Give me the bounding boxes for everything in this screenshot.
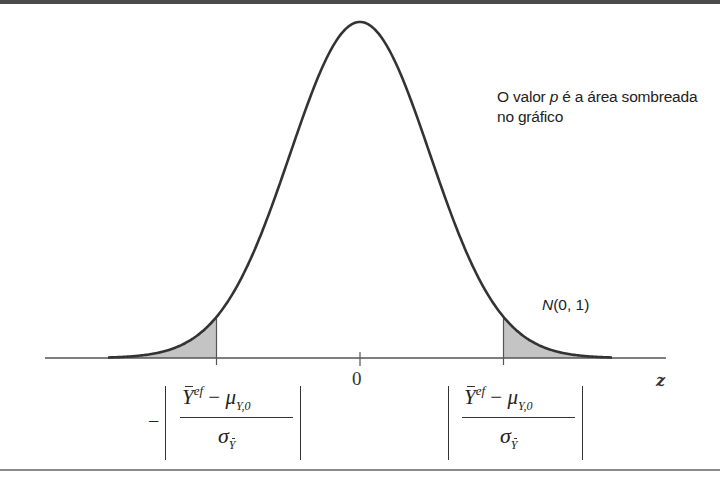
distribution-name: N [542, 296, 553, 313]
right-cutoff-formula: Yef − μY,0 σY [440, 380, 610, 462]
negative-sign: − [148, 410, 159, 433]
distribution-params: (0, 1) [553, 296, 589, 313]
abs-bar-left [165, 386, 166, 460]
annotation-p-symbol: p [550, 88, 558, 105]
y-bar-symbol: Y [464, 385, 476, 410]
distribution-label: N(0, 1) [542, 296, 589, 314]
mu-subscript: Y,0 [518, 399, 533, 413]
normal-density-curve [108, 22, 612, 357]
ef-superscript: ef [476, 383, 485, 398]
formula-denominator: σY [500, 423, 518, 453]
y-bar-symbol: Y [182, 385, 194, 410]
annotation-text-prefix: O valor [497, 88, 550, 105]
sigma-subscript: Y [229, 438, 236, 453]
mu-subscript: Y,0 [236, 399, 251, 413]
z-axis-label: z [656, 371, 665, 390]
minus-operator: − [203, 385, 225, 409]
left-cutoff-formula: − Yef − μY,0 σY [140, 380, 310, 462]
abs-bar-left [448, 386, 449, 460]
sigma-symbol: σ [218, 423, 229, 448]
p-value-annotation: O valor p é a área sombreada no gráfico [497, 87, 717, 127]
minus-operator: − [485, 385, 507, 409]
abs-bar-right [300, 386, 301, 460]
bottom-border-rule [0, 469, 720, 471]
fraction-line [180, 417, 293, 418]
sigma-subscript: Y [511, 438, 518, 453]
sigma-symbol: σ [500, 423, 511, 448]
normal-distribution-plot [0, 0, 720, 486]
formula-numerator: Yef − μY,0 [182, 383, 251, 414]
zero-tick-label: 0 [352, 368, 362, 390]
abs-bar-right [582, 386, 583, 460]
formula-denominator: σY [218, 423, 236, 453]
formula-numerator: Yef − μY,0 [464, 383, 533, 414]
mu-symbol: μ [225, 385, 236, 409]
annotation-text-suffix: é a área sombreada [558, 88, 697, 105]
annotation-text-line2: no gráfico [497, 108, 563, 125]
fraction-line [462, 417, 575, 418]
mu-symbol: μ [507, 385, 518, 409]
ef-superscript: ef [194, 383, 203, 398]
